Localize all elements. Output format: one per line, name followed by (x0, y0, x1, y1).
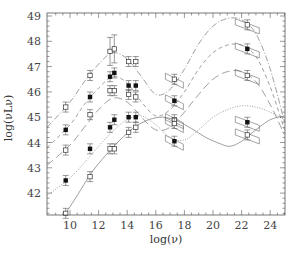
open-square-marker (88, 174, 92, 178)
model-curve-sequence-2 (47, 44, 284, 148)
filled-square-marker (108, 125, 112, 129)
y-tick-label: 49 (27, 10, 41, 23)
x-tick-label: 10 (63, 219, 77, 232)
y-tick-labels: 4243444546474849 (27, 10, 41, 200)
filled-square-marker (112, 71, 116, 75)
filled-square-marker (172, 99, 176, 103)
open-square-marker (126, 130, 130, 134)
x-tick-labels: 1012141618202224 (63, 219, 277, 232)
y-tick-label: 48 (27, 35, 41, 48)
open-square-marker (112, 88, 116, 92)
y-tick-label: 43 (27, 162, 41, 175)
open-square-marker (64, 105, 68, 109)
open-square-marker (108, 49, 112, 53)
filled-square-marker (245, 47, 249, 51)
open-square-marker (172, 77, 176, 81)
open-square-marker (88, 112, 92, 116)
open-square-marker (108, 88, 112, 92)
filled-square-marker (88, 147, 92, 151)
x-tick-label: 18 (177, 219, 191, 232)
open-square-marker (108, 147, 112, 151)
open-square-marker (245, 73, 249, 77)
x-tick-label: 12 (92, 219, 106, 232)
open-square-marker (134, 125, 138, 129)
model-curve-sequence-5 (66, 116, 285, 213)
x-axis-title: log(ν) (150, 233, 182, 246)
filled-square-marker (126, 83, 130, 87)
open-square-marker (112, 147, 116, 151)
y-tick-label: 44 (27, 137, 41, 150)
open-square-marker (245, 133, 249, 137)
open-square-marker (126, 59, 130, 63)
filled-square-marker (126, 115, 130, 119)
x-tick-label: 14 (120, 219, 134, 232)
filled-square-marker (88, 95, 92, 99)
filled-square-marker (134, 115, 138, 119)
open-square-marker (245, 23, 249, 27)
open-square-marker (126, 92, 130, 96)
filled-square-marker (64, 178, 68, 182)
y-tick-label: 47 (27, 61, 41, 74)
open-square-marker (172, 121, 176, 125)
model-curve-sequence-4 (47, 106, 284, 196)
y-axis-title: log(νLν) (2, 95, 15, 141)
filled-square-marker (134, 83, 138, 87)
model-curve-sequence-1 (47, 18, 284, 128)
open-square-marker (112, 47, 116, 51)
y-tick-label: 45 (27, 111, 41, 124)
data-points (63, 19, 260, 218)
filled-square-marker (245, 120, 249, 124)
filled-square-marker (172, 139, 176, 143)
y-tick-label: 46 (27, 86, 41, 99)
filled-square-marker (112, 118, 116, 122)
sed-plot: 1012141618202224 4243444546474849 log(ν)… (0, 0, 296, 257)
filled-square-marker (64, 128, 68, 132)
x-tick-label: 24 (263, 219, 277, 232)
open-square-marker (88, 73, 92, 77)
open-square-marker (134, 59, 138, 63)
open-square-marker (134, 95, 138, 99)
filled-square-marker (108, 75, 112, 79)
y-tick-label: 42 (27, 187, 41, 200)
x-tick-label: 16 (149, 219, 163, 232)
open-square-marker (64, 148, 68, 152)
x-tick-label: 22 (235, 219, 249, 232)
x-tick-label: 20 (206, 219, 220, 232)
